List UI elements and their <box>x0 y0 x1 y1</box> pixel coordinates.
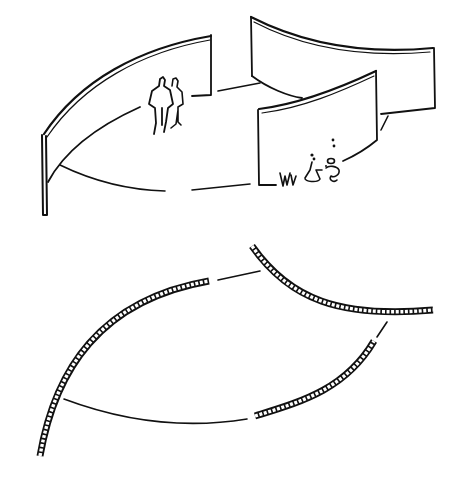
plan-wall-left <box>40 281 209 456</box>
perspective-view <box>42 17 435 215</box>
ground-outline <box>60 83 388 191</box>
plant-icon <box>280 173 296 186</box>
architectural-sketch <box>0 0 464 487</box>
seated-figures-icon <box>305 139 339 182</box>
right-lower-wall <box>258 71 377 185</box>
people-figures-icon <box>149 77 183 134</box>
left-curved-wall <box>42 35 211 215</box>
plan-view <box>40 246 433 456</box>
plan-wall-upper-right <box>252 246 433 312</box>
right-upper-wall <box>251 17 435 114</box>
sketch-drawing <box>0 0 464 487</box>
plan-openings <box>64 271 387 424</box>
plan-wall-lower-right <box>255 341 374 416</box>
